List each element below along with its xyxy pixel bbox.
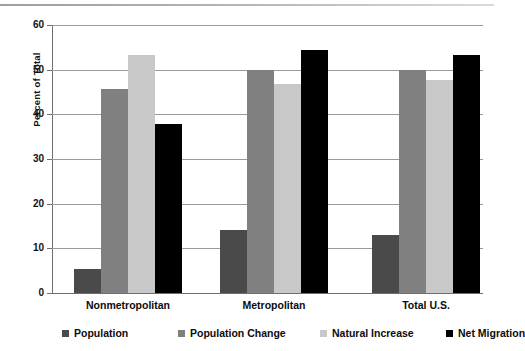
legend-item: Net Migration (446, 326, 525, 340)
gridline-0 (52, 293, 483, 294)
legend-swatch-icon (178, 330, 185, 337)
y-tick-label-wrap: 20 (0, 199, 44, 209)
y-tick-label: 10 (4, 243, 44, 253)
legend-swatch-icon (62, 330, 69, 337)
legend-swatch-icon (446, 330, 453, 337)
y-tick-label: 0 (4, 288, 44, 298)
legend-item: Population Change (178, 326, 286, 340)
bar (155, 124, 182, 293)
x-axis-label-metropolitan: Metropolitan (194, 299, 354, 311)
bar (372, 235, 399, 293)
legend-item: Natural Increase (320, 326, 414, 340)
bar (426, 80, 453, 294)
scan-artifact-line (0, 4, 494, 6)
bar (301, 50, 328, 293)
bar (274, 84, 301, 293)
bar (247, 70, 274, 293)
x-axis-label-nonmetropolitan: Nonmetropolitan (48, 299, 208, 311)
bar-group (372, 25, 480, 293)
legend-label: Natural Increase (332, 328, 414, 339)
y-tick-label-wrap: 0 (0, 288, 44, 298)
bar-group (74, 25, 182, 293)
legend-label: Population (74, 328, 128, 339)
legend-label: Net Migration (458, 328, 525, 339)
legend-label: Population Change (190, 328, 286, 339)
bar (128, 55, 155, 293)
bar (220, 230, 247, 293)
bar (453, 55, 480, 293)
legend-item: Population (62, 326, 128, 340)
bars-layer (52, 25, 483, 293)
bar (399, 70, 426, 293)
y-axis-title: Percent of Total (31, 20, 42, 160)
y-tick-label: 20 (4, 199, 44, 209)
bar (74, 269, 101, 293)
legend-swatch-icon (320, 330, 327, 337)
chart-legend: PopulationPopulation ChangeNatural Incre… (52, 326, 483, 342)
plot-area (52, 25, 483, 293)
x-axis-label-total-u-s: Total U.S. (346, 299, 506, 311)
bar-group (220, 25, 328, 293)
y-tick-label-wrap: 10 (0, 243, 44, 253)
bar (101, 89, 128, 293)
